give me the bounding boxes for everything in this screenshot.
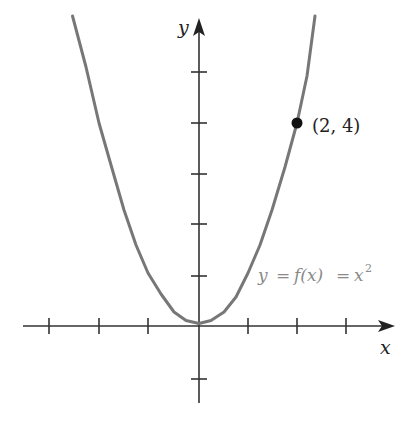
point-marker <box>292 118 303 129</box>
equation-exponent: 2 <box>365 262 372 275</box>
equation-equals-1: = <box>276 265 290 285</box>
equation-x: x <box>354 265 364 285</box>
x-axis-label: x <box>380 336 391 358</box>
parabola-figure: y x (2, 4) y = f(x) = x 2 <box>0 0 417 429</box>
equation-y: y <box>257 265 268 285</box>
equation-fx: f(x) <box>292 265 323 285</box>
equation-equals-2: = <box>336 265 350 285</box>
equation-label: y = f(x) = x 2 <box>257 262 372 285</box>
y-axis-label: y <box>177 16 189 38</box>
point-label: (2, 4) <box>312 115 360 136</box>
